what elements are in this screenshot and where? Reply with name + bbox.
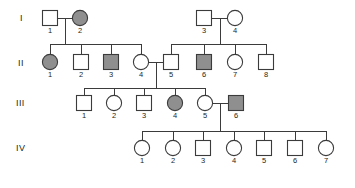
- individual-II-2-unaffected-square[interactable]: [74, 55, 89, 70]
- individual-number-I-4: 4: [233, 26, 237, 35]
- individual-I-3-unaffected-square[interactable]: [197, 11, 212, 26]
- individual-symbols: [42, 10, 333, 155]
- pedigree-chart: 1234123456781234561234567 IIIIIIIV: [0, 0, 355, 188]
- individual-number-III-6: 6: [234, 111, 238, 120]
- generation-labels: IIIIIIIV: [16, 13, 25, 153]
- individual-II-1-affected-circle[interactable]: [42, 54, 57, 69]
- connector-lines: [50, 18, 326, 141]
- individual-III-2-unaffected-circle[interactable]: [106, 95, 121, 110]
- generation-label-III: III: [16, 98, 25, 108]
- individual-number-IV-2: 2: [171, 156, 175, 165]
- individual-number-II-6: 6: [202, 70, 206, 79]
- individual-I-2-affected-circle[interactable]: [72, 10, 87, 25]
- individual-IV-6-unaffected-square[interactable]: [288, 141, 303, 156]
- individual-II-3-affected-square[interactable]: [104, 55, 119, 70]
- individual-number-II-1: 1: [48, 70, 52, 79]
- individual-number-III-4: 4: [173, 111, 177, 120]
- individual-number-IV-3: 3: [201, 156, 205, 165]
- individual-IV-2-unaffected-circle[interactable]: [165, 140, 180, 155]
- individual-number-I-1: 1: [48, 26, 52, 35]
- individual-IV-7-unaffected-circle[interactable]: [318, 140, 333, 155]
- individual-number-I-3: 3: [202, 26, 206, 35]
- individual-IV-5-unaffected-square[interactable]: [257, 141, 272, 156]
- individual-number-II-5: 5: [169, 70, 173, 79]
- generation-label-I: I: [20, 13, 23, 23]
- individual-II-5-unaffected-square[interactable]: [164, 55, 179, 70]
- individual-number-II-4: 4: [139, 70, 143, 79]
- individual-number-II-7: 7: [233, 70, 237, 79]
- individual-number-I-2: 2: [78, 26, 82, 35]
- individual-IV-4-unaffected-circle[interactable]: [226, 140, 241, 155]
- individual-IV-1-unaffected-circle[interactable]: [134, 140, 149, 155]
- individual-III-3-unaffected-square[interactable]: [137, 96, 152, 111]
- individual-number-IV-5: 5: [262, 156, 266, 165]
- individual-II-6-affected-square[interactable]: [197, 55, 212, 70]
- individual-III-5-unaffected-circle[interactable]: [197, 95, 212, 110]
- individual-IV-3-unaffected-square[interactable]: [196, 141, 211, 156]
- individual-number-II-8: 8: [264, 70, 268, 79]
- individual-number-IV-6: 6: [293, 156, 297, 165]
- individual-number-III-5: 5: [203, 111, 207, 120]
- individual-number-II-3: 3: [109, 70, 113, 79]
- individual-number-III-1: 1: [82, 111, 86, 120]
- individual-III-4-affected-circle[interactable]: [167, 95, 182, 110]
- generation-label-IV: IV: [16, 143, 25, 153]
- individual-number-IV-4: 4: [232, 156, 236, 165]
- individual-I-4-unaffected-circle[interactable]: [227, 10, 242, 25]
- individual-III-6-affected-square[interactable]: [229, 96, 244, 111]
- individual-I-1-unaffected-square[interactable]: [43, 11, 58, 26]
- generation-label-II: II: [18, 58, 24, 68]
- individual-number-II-2: 2: [79, 70, 83, 79]
- individual-III-1-unaffected-square[interactable]: [77, 96, 92, 111]
- individual-II-7-unaffected-circle[interactable]: [227, 54, 242, 69]
- individual-number-IV-1: 1: [140, 156, 144, 165]
- individual-number-III-3: 3: [142, 111, 146, 120]
- individual-II-4-unaffected-circle[interactable]: [133, 54, 148, 69]
- individual-number-IV-7: 7: [324, 156, 328, 165]
- pedigree-diagram: 1234123456781234561234567 IIIIIIIV: [0, 0, 355, 188]
- individual-number-III-2: 2: [112, 111, 116, 120]
- individual-II-8-unaffected-square[interactable]: [259, 55, 274, 70]
